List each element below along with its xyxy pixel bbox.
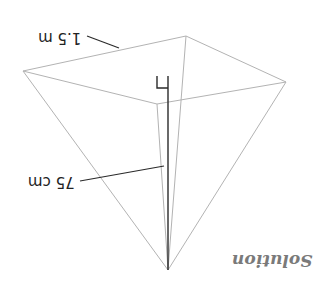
height-label: 75 cm (28, 174, 75, 189)
solution-title: Solution (232, 252, 312, 269)
base-edge-label: 1.5 m (38, 30, 81, 45)
right-angle-marker (157, 76, 168, 88)
lateral-edge-right (168, 82, 286, 270)
pyramid-diagram: 1.5 m 75 cm Solution (0, 0, 328, 286)
height-leader-line (80, 166, 164, 181)
base-edge-leader-line (87, 36, 119, 48)
lateral-edge-back (168, 36, 186, 270)
lateral-edge-front (157, 104, 168, 270)
